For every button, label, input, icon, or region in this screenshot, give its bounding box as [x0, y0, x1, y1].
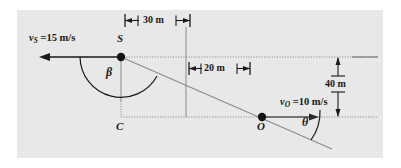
- dimension-label-30m: 30 m: [143, 15, 164, 25]
- angle-label-theta: θ: [302, 116, 308, 128]
- source-velocity-label: vS =15 m/s: [29, 33, 75, 44]
- dim-40m-arrowhead-top: [336, 57, 341, 65]
- figure-root: S C O vS =15 m/s vO =10 m/s 30 m 20 m 40…: [0, 0, 401, 168]
- observer-velocity-arrowhead: [309, 114, 319, 121]
- angle-beta-arc: [80, 57, 157, 97]
- point-label-o: O: [257, 121, 265, 132]
- dim-40m-arrowhead-bottom: [336, 109, 341, 117]
- dim-20m-arrowhead-right: [243, 66, 250, 71]
- observer-velocity-value: =10 m/s: [290, 96, 327, 107]
- observer-velocity-label: vO =10 m/s: [280, 97, 328, 108]
- angle-theta-arc: [311, 110, 320, 140]
- point-label-s: S: [117, 33, 123, 44]
- point-label-c: C: [116, 121, 123, 132]
- source-velocity-value: =15 m/s: [38, 32, 75, 43]
- dim-30m-arrowhead-left: [125, 18, 132, 23]
- source-velocity-arrowhead: [39, 53, 50, 61]
- dim-30m-arrowhead-right: [183, 18, 190, 23]
- dimension-label-20m: 20 m: [204, 63, 225, 73]
- dimension-label-40m: 40 m: [325, 79, 346, 89]
- point-marker-s: [117, 53, 125, 61]
- dim-20m-arrowhead-left: [189, 66, 196, 71]
- angle-label-beta: β: [106, 66, 112, 78]
